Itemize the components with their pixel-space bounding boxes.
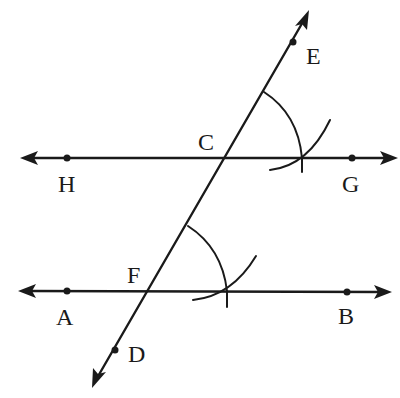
label-D: D (128, 341, 145, 367)
arrowhead-up-icon (295, 10, 309, 30)
label-F: F (127, 262, 140, 288)
arc-angle-F (188, 226, 227, 307)
label-B: B (338, 303, 354, 329)
point-H (64, 155, 71, 162)
label-H: H (58, 171, 75, 197)
label-A: A (56, 304, 74, 330)
label-E: E (306, 43, 321, 69)
point-B (344, 289, 351, 296)
point-E (290, 39, 297, 46)
line-DE-transversal (92, 10, 309, 388)
arrowhead-down-icon (92, 368, 106, 388)
point-A (64, 288, 71, 295)
point-D (112, 347, 119, 354)
label-C: C (198, 129, 214, 155)
label-G: G (342, 171, 359, 197)
line-AB (18, 284, 392, 299)
point-G (349, 155, 356, 162)
geometry-diagram: E C H G F A B D (0, 0, 400, 398)
